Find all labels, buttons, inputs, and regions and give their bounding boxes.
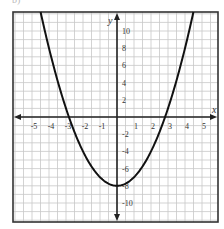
y-tick-label: -6 [122, 165, 129, 174]
x-tick-label: -2 [82, 122, 89, 131]
y-tick-label: -4 [122, 147, 129, 156]
x-tick-label: 4 [185, 122, 189, 131]
y-tick-label: -2 [122, 130, 129, 139]
x-tick-label: -5 [31, 122, 38, 131]
x-tick-label: -4 [48, 122, 55, 131]
x-tick-label: 3 [168, 122, 172, 131]
x-axis-label: x [211, 104, 217, 115]
x-tick-label: 2 [151, 122, 155, 131]
y-axis-label: y [107, 15, 113, 26]
x-tick-label: 1 [134, 122, 138, 131]
y-tick-label: 8 [122, 44, 126, 53]
x-tick-label: 5 [202, 122, 206, 131]
y-tick-label: 6 [122, 61, 126, 70]
y-tick-label: -10 [122, 199, 133, 208]
y-tick-label: 10 [122, 27, 130, 36]
x-tick-label: -1 [99, 122, 106, 131]
y-tick-label: 4 [122, 79, 126, 88]
y-tick-label: 2 [122, 96, 126, 105]
coordinate-plane: -5-4-3-2-112345-10-8-6-4-2246810 x y [0, 0, 224, 229]
